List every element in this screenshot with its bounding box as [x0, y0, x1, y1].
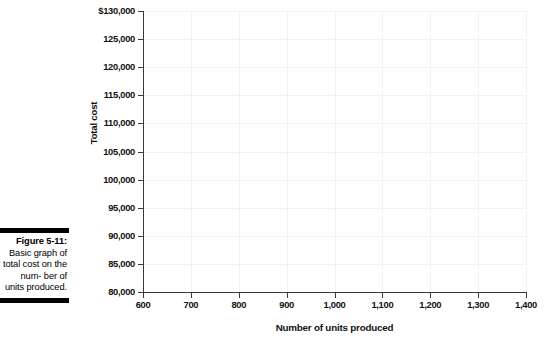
figure-chart: 80,00085,00090,00095,000100,000105,00011… [0, 0, 545, 349]
y-axis-tick-label: $130,000 [83, 6, 135, 16]
x-axis-tick-label: 1,200 [404, 299, 456, 310]
figure-caption-text: Figure 5-11: Basic graph of total cost o… [0, 233, 69, 297]
x-axis-tick [287, 293, 288, 298]
y-axis-tick [138, 208, 143, 209]
y-axis-tick [138, 39, 143, 40]
gridline-vertical [335, 11, 336, 292]
y-axis-tick [138, 180, 143, 181]
y-axis-tick [138, 264, 143, 265]
figure-caption-body: Basic graph of total cost on the num- be… [0, 248, 67, 294]
x-axis-tick-label: 1,100 [356, 299, 408, 310]
x-axis-tick [335, 293, 336, 298]
y-axis-tick-label: 80,000 [83, 287, 135, 297]
gridline-vertical [287, 11, 288, 292]
gridline-vertical [382, 11, 383, 292]
y-axis-tick [138, 67, 143, 68]
y-axis-tick-label: 85,000 [83, 259, 135, 269]
x-axis-tick-label: 600 [117, 299, 169, 310]
y-axis-tick-labels: 80,00085,00090,00095,000100,000105,00011… [83, 0, 135, 349]
x-axis-tick-label: 800 [213, 299, 265, 310]
y-axis-tick-label: 90,000 [83, 231, 135, 241]
x-axis-tick-label: 900 [261, 299, 313, 310]
x-axis-tick [526, 293, 527, 298]
x-axis-title: Number of units produced [143, 322, 526, 333]
x-axis-tick-label: 1,000 [309, 299, 361, 310]
x-axis-tick [191, 293, 192, 298]
x-axis-tick [478, 293, 479, 298]
x-axis-tick [382, 293, 383, 298]
gridline-vertical [526, 11, 527, 292]
gridline-vertical [478, 11, 479, 292]
x-axis-tick [430, 293, 431, 298]
x-axis-tick-label: 1,300 [452, 299, 504, 310]
gridline-vertical [191, 11, 192, 292]
plot-area [143, 11, 526, 292]
y-axis-title: Total cost [88, 88, 102, 158]
y-axis-line [143, 11, 144, 293]
y-axis-tick [138, 152, 143, 153]
y-axis-tick [138, 236, 143, 237]
y-axis-tick-label: 100,000 [83, 175, 135, 185]
y-axis-tick-label: 125,000 [83, 34, 135, 44]
y-axis-tick-label: 120,000 [83, 62, 135, 72]
gridline-vertical [430, 11, 431, 292]
figure-caption-title: Figure 5-11: [0, 236, 67, 248]
figure-caption-block: Figure 5-11: Basic graph of total cost o… [0, 228, 69, 303]
y-axis-tick [138, 11, 143, 12]
y-axis-tick-label: 95,000 [83, 203, 135, 213]
y-axis-tick [138, 95, 143, 96]
gridline-vertical [239, 11, 240, 292]
x-axis-tick [239, 293, 240, 298]
x-axis-tick-label: 1,400 [500, 299, 545, 310]
x-axis-tick-label: 700 [165, 299, 217, 310]
caption-rule-bottom [0, 298, 69, 303]
x-axis-tick [143, 293, 144, 298]
y-axis-tick [138, 123, 143, 124]
